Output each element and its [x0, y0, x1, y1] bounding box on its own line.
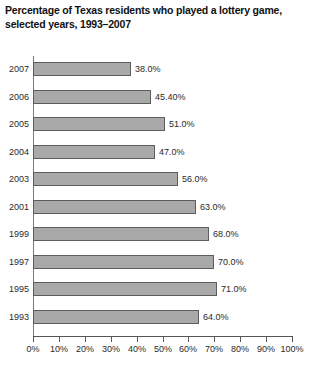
bar-value-label-2004: 47.0% [159, 145, 185, 159]
bar-row: 199364.0% [0, 310, 315, 324]
bar-2003 [33, 172, 178, 186]
bar-1997 [33, 255, 214, 269]
bar-row: 199571.0% [0, 282, 315, 296]
tick-mark-40 [137, 337, 138, 342]
bar-value-label-2003: 56.0% [182, 172, 208, 186]
bar-row: 200551.0% [0, 117, 315, 131]
bar-2004 [33, 145, 155, 159]
tick-mark-0 [33, 337, 34, 342]
bar-row: 199968.0% [0, 227, 315, 241]
bar-2007 [33, 62, 131, 76]
tick-mark-10 [59, 337, 60, 342]
bar-value-label-2001: 63.0% [200, 200, 226, 214]
chart-title-line-2: selected years, 1993–2007 [5, 18, 305, 32]
bar-value-label-2006: 45.40% [155, 90, 186, 104]
bar-track [33, 255, 292, 269]
bar-2006 [33, 90, 151, 104]
bar-1995 [33, 282, 217, 296]
category-label-1997: 1997 [0, 255, 29, 269]
tick-mark-100 [292, 337, 293, 342]
bar-row: 200447.0% [0, 145, 315, 159]
bar-row: 200356.0% [0, 172, 315, 186]
bar-track [33, 172, 292, 186]
tick-label-100: 100% [272, 344, 312, 354]
bar-row: 200738.0% [0, 62, 315, 76]
category-label-2006: 2006 [0, 90, 29, 104]
bar-chart: 200738.0%200645.40%200551.0%200447.0%200… [0, 56, 315, 372]
category-label-2003: 2003 [0, 172, 29, 186]
tick-mark-80 [240, 337, 241, 342]
bar-2001 [33, 200, 196, 214]
bar-value-label-1999: 68.0% [213, 227, 239, 241]
bar-value-label-2005: 51.0% [169, 117, 195, 131]
bar-track [33, 62, 292, 76]
tick-mark-20 [85, 337, 86, 342]
bar-value-label-1997: 70.0% [218, 255, 244, 269]
tick-mark-50 [163, 337, 164, 342]
chart-title-line-1: Percentage of Texas residents who played… [5, 4, 305, 18]
bar-value-label-2007: 38.0% [135, 62, 161, 76]
category-label-1993: 1993 [0, 310, 29, 324]
category-label-2005: 2005 [0, 117, 29, 131]
category-label-1999: 1999 [0, 227, 29, 241]
category-label-2004: 2004 [0, 145, 29, 159]
category-label-2007: 2007 [0, 62, 29, 76]
bar-track [33, 282, 292, 296]
tick-mark-90 [266, 337, 267, 342]
tick-mark-30 [111, 337, 112, 342]
category-label-2001: 2001 [0, 200, 29, 214]
bar-row: 199770.0% [0, 255, 315, 269]
bar-2005 [33, 117, 165, 131]
bar-track [33, 227, 292, 241]
bar-row: 200163.0% [0, 200, 315, 214]
bar-value-label-1993: 64.0% [203, 310, 229, 324]
tick-mark-60 [188, 337, 189, 342]
bar-track [33, 117, 292, 131]
bar-track [33, 200, 292, 214]
bar-1999 [33, 227, 209, 241]
tick-mark-70 [214, 337, 215, 342]
page-title: Percentage of Texas residents who played… [5, 4, 305, 31]
category-label-1995: 1995 [0, 282, 29, 296]
bar-value-label-1995: 71.0% [221, 282, 247, 296]
bar-row: 200645.40% [0, 90, 315, 104]
bar-track [33, 310, 292, 324]
bar-1993 [33, 310, 199, 324]
value-axis-ticks: 0%10%20%30%40%50%60%70%80%90%100% [0, 337, 315, 372]
